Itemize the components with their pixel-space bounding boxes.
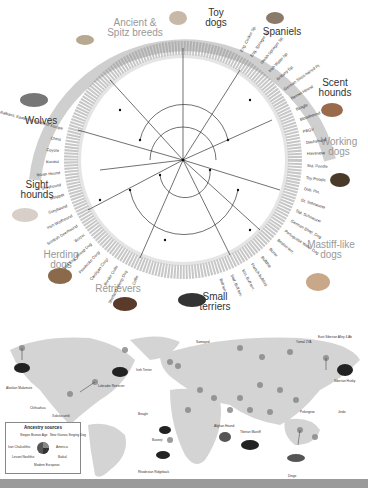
siberian-husky-icon	[337, 364, 353, 376]
rhodesian-ridgeback-icon	[156, 451, 170, 459]
legend-source: America	[56, 445, 68, 449]
legend-source: Baikal	[58, 455, 67, 459]
ancestry-pie-icon	[36, 441, 50, 455]
basenji-icon	[159, 426, 171, 434]
retriever-icon	[113, 297, 137, 311]
borzoi-icon	[12, 208, 38, 222]
map-label: Beagle	[138, 412, 148, 416]
tibetan-mastiff-icon	[241, 440, 259, 450]
legend-source: Steppe Bronze Age	[20, 433, 47, 437]
spitz-dog-icon	[76, 35, 94, 45]
ancestry-legend: Ancestry sources Steppe Bronze Age New G…	[5, 422, 81, 474]
site-label: East Siberian Alley 4 Ab	[318, 335, 352, 339]
wolf-icon	[20, 93, 48, 107]
map-label: Afghan Hound	[214, 424, 234, 428]
map-label: Xoloitzcuintli	[52, 414, 70, 418]
leaf-label: Coyote	[47, 147, 60, 153]
map-label: Siberian Husky	[334, 379, 355, 383]
legend-source: New Guinea Singing Dog	[50, 433, 86, 437]
toy-dog-icon	[169, 11, 187, 25]
legend-title: Ancestry sources	[6, 425, 80, 430]
bottom-bar	[0, 479, 368, 488]
map-label: Samoyed	[196, 340, 209, 344]
legend-source: Levant Neolithic	[12, 455, 35, 459]
dingo-icon	[287, 454, 305, 462]
map-label: Chihuahua	[30, 406, 45, 410]
map-label: Irish Terrier	[136, 368, 152, 372]
map-label: Rhodesian Ridgeback	[138, 470, 169, 474]
scottish-terrier-icon	[178, 293, 206, 307]
afghan-hound-icon	[219, 432, 231, 442]
map-label: Alaskan Malamute	[6, 386, 32, 390]
legend-source: Iran Chalcolithic	[8, 445, 31, 449]
leaf-label: Kuvasz	[46, 159, 59, 164]
map-label: Jindo	[338, 410, 346, 414]
map-label: Tibetan Mastiff	[240, 430, 261, 434]
leaf-label: Std. Poodle	[307, 163, 328, 169]
map-label: Labrador Retriever	[98, 384, 125, 388]
spaniel-icon	[266, 12, 284, 24]
map-label: Dingo	[288, 474, 296, 478]
collie-icon	[48, 268, 72, 284]
bloodhound-icon	[321, 103, 343, 117]
map-label: Pekingese	[300, 410, 315, 414]
doberman-icon	[330, 173, 350, 187]
site-label: Yamal 2YA	[296, 340, 311, 344]
labrador-icon	[112, 367, 128, 377]
alaskan-malamute-icon	[14, 363, 30, 373]
map-label: Basenji	[152, 438, 162, 442]
mastiff-icon	[306, 273, 330, 291]
legend-source: Modern European	[34, 463, 60, 467]
